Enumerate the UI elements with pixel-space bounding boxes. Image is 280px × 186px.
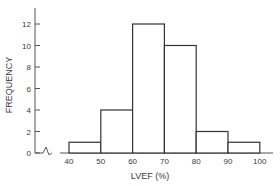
- x-tick-label: 80: [192, 157, 201, 166]
- y-tick-label: 10: [22, 42, 31, 51]
- x-tick-label: 40: [65, 157, 74, 166]
- y-tick-label: 4: [27, 106, 32, 115]
- y-tick-label: 0: [27, 149, 32, 158]
- x-tick-label: 90: [224, 157, 233, 166]
- histogram-bar: [196, 132, 228, 154]
- histogram-bar: [164, 46, 196, 154]
- y-tick-label: 12: [22, 20, 31, 29]
- y-axis-label: FREQUENCY: [4, 57, 14, 114]
- y-tick-label: 8: [27, 63, 32, 72]
- histogram-bar: [69, 142, 101, 153]
- axis-break-icon: [35, 147, 52, 155]
- x-tick-label: 70: [160, 157, 169, 166]
- histogram-bar: [133, 24, 165, 153]
- x-axis-label: LVEF (%): [131, 171, 169, 181]
- lvef-histogram: 024681012 405060708090100 FREQUENCY LVEF…: [0, 0, 280, 186]
- x-tick-label: 100: [253, 157, 267, 166]
- y-axis: 024681012: [22, 8, 40, 158]
- y-tick-label: 6: [27, 85, 32, 94]
- x-tick-label: 50: [96, 157, 105, 166]
- chart-svg: 024681012 405060708090100 FREQUENCY LVEF…: [0, 0, 280, 186]
- x-tick-label: 60: [128, 157, 137, 166]
- histogram-bars: [69, 24, 260, 153]
- histogram-bar: [101, 110, 133, 153]
- histogram-bar: [228, 142, 260, 153]
- y-tick-label: 2: [27, 128, 32, 137]
